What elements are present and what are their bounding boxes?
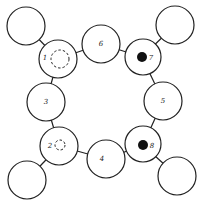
- diagram-canvas: [0, 0, 203, 206]
- node-2: [40, 127, 78, 165]
- node-label-7: 7: [149, 55, 153, 62]
- filled-dot-icon: [137, 52, 147, 62]
- node-label-1: 1: [43, 55, 47, 62]
- node-label-8: 8: [150, 143, 154, 150]
- node-label-3: 3: [44, 99, 48, 106]
- node-label-6: 6: [99, 41, 103, 48]
- node-o8: [158, 157, 196, 195]
- node-o7: [156, 6, 194, 44]
- nodes-layer: [7, 6, 196, 199]
- node-label-5: 5: [161, 98, 165, 105]
- filled-dot-icon: [138, 140, 148, 150]
- node-o1: [7, 7, 45, 45]
- node-label-2: 2: [48, 143, 52, 150]
- node-o2: [8, 161, 46, 199]
- node-4: [87, 140, 125, 178]
- node-label-4: 4: [100, 156, 104, 163]
- ring-network-diagram: 16735248: [0, 0, 203, 206]
